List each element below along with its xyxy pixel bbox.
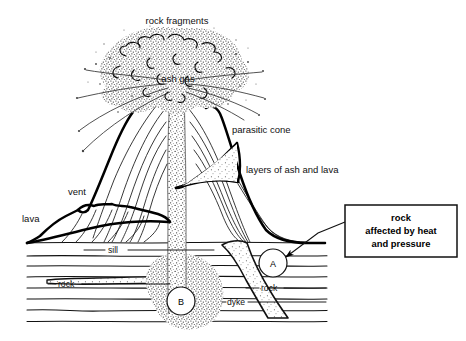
marker-circle-a[interactable]: A	[259, 249, 287, 277]
label-sill: sill	[108, 245, 118, 255]
label-rock-left: rock	[58, 279, 75, 289]
callout-line-3: and pressure	[372, 238, 431, 249]
label-parasitic-cone: parasitic cone	[232, 124, 291, 135]
label-ash-gas: ash gas	[161, 73, 195, 84]
marker-circle-b[interactable]: B	[167, 287, 195, 315]
diagram-canvas: A B rock affected by heat and pressure r…	[0, 0, 466, 341]
label-lava: lava	[22, 213, 40, 224]
label-layers-of-ash-and-lava: layers of ash and lava	[246, 164, 339, 175]
callout-box: rock affected by heat and pressure	[345, 205, 457, 257]
label-rock-right: rock	[261, 283, 278, 293]
volcano-diagram: A B rock affected by heat and pressure r…	[0, 0, 466, 341]
marker-a-label: A	[270, 259, 276, 269]
callout-line-2: affected by heat	[365, 225, 436, 236]
callout-line-1: rock	[391, 212, 412, 223]
label-dyke: dyke	[227, 297, 245, 307]
label-vent: vent	[68, 186, 86, 197]
label-rock-fragments: rock fragments	[146, 15, 209, 26]
magma-conduit	[168, 86, 187, 316]
marker-b-label: B	[178, 297, 184, 307]
